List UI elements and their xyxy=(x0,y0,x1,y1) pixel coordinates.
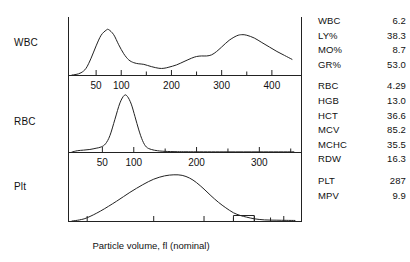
results-group-rbc: RBC 4.29 HGB 13.0 HCT 36.6 MCV 85.2 MCHC… xyxy=(318,79,406,167)
histogram-panel-plt: 25102030 xyxy=(69,175,302,222)
result-label: MCV xyxy=(318,123,339,138)
result-value: 8.7 xyxy=(392,43,406,58)
axis-tick-label: 50 xyxy=(91,80,103,91)
axis-tick-label: 400 xyxy=(264,80,281,91)
result-value: 16.3 xyxy=(387,152,406,167)
result-row: MPV 9.9 xyxy=(318,189,406,204)
result-label: PLT xyxy=(318,174,335,189)
results-group-wbc: WBC 6.2 LY% 38.3 MO% 8.7 GR% 53.0 xyxy=(318,14,406,72)
result-label: RBC xyxy=(318,79,338,94)
result-row: HCT 36.6 xyxy=(318,109,406,124)
result-label: HCT xyxy=(318,109,338,124)
result-label: WBC xyxy=(318,14,340,29)
histogram-panel-wbc: 50100200300400 xyxy=(69,29,302,91)
axis-tick-label: 50 xyxy=(97,157,109,168)
result-label: GR% xyxy=(318,58,341,73)
result-value: 38.3 xyxy=(387,29,406,44)
result-row: RBC 4.29 xyxy=(318,79,406,94)
histogram-panel-rbc: 50100200300 xyxy=(69,95,302,168)
result-value: 4.29 xyxy=(387,79,406,94)
result-value: 53.0 xyxy=(387,58,406,73)
result-row: MO% 8.7 xyxy=(318,43,406,58)
axis-tick-label: 300 xyxy=(251,157,268,168)
result-value: 6.2 xyxy=(392,14,406,29)
panel-label-plt: Plt xyxy=(14,181,26,192)
result-label: MCHC xyxy=(318,138,347,153)
panel-label-rbc: RBC xyxy=(14,116,36,127)
axis-tick-label: 200 xyxy=(188,157,205,168)
result-row: GR% 53.0 xyxy=(318,58,406,73)
result-label: HGB xyxy=(318,94,339,109)
result-label: MPV xyxy=(318,189,339,204)
result-row: LY% 38.3 xyxy=(318,29,406,44)
results-panel: WBC 6.2 LY% 38.3 MO% 8.7 GR% 53.0 RBC 4.… xyxy=(318,14,406,210)
result-row: HGB 13.0 xyxy=(318,94,406,109)
x-axis-caption: Particle volume, fl (nominal) xyxy=(0,240,302,251)
result-label: RDW xyxy=(318,152,341,167)
result-value: 9.9 xyxy=(392,189,406,204)
axis-tick-label: 200 xyxy=(163,80,180,91)
result-value: 85.2 xyxy=(387,123,406,138)
histogram-svg: 501002003004005010020030025102030 xyxy=(68,17,302,222)
histogram-curve-rbc xyxy=(72,95,294,152)
result-label: MO% xyxy=(318,43,342,58)
result-row: PLT 287 xyxy=(318,174,406,189)
result-row: MCV 85.2 xyxy=(318,123,406,138)
axis-tick-label: 100 xyxy=(113,80,130,91)
axis-tick-label: 300 xyxy=(213,80,230,91)
axis-tick-label: 100 xyxy=(125,157,142,168)
panel-label-wbc: WBC xyxy=(14,37,38,48)
histogram-plot-frame: 501002003004005010020030025102030 xyxy=(68,17,302,222)
result-row: WBC 6.2 xyxy=(318,14,406,29)
result-row: MCHC 35.5 xyxy=(318,138,406,153)
histogram-curve-wbc xyxy=(72,29,292,75)
result-value: 13.0 xyxy=(387,94,406,109)
hematology-histogram-report: WBC RBC Plt 5010020030040050100200300251… xyxy=(0,0,410,262)
result-row: RDW 16.3 xyxy=(318,152,406,167)
histogram-curve-plt xyxy=(72,175,295,221)
result-label: LY% xyxy=(318,29,338,44)
results-group-plt: PLT 287 MPV 9.9 xyxy=(318,174,406,203)
result-value: 35.5 xyxy=(387,138,406,153)
result-value: 36.6 xyxy=(387,109,406,124)
result-value: 287 xyxy=(390,174,406,189)
